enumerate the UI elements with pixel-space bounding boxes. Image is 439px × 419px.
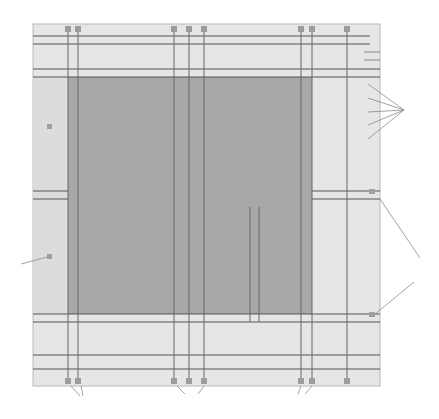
wiring-diagram	[0, 0, 439, 419]
dark-region	[68, 77, 312, 314]
left-square	[47, 124, 52, 129]
extra-square-r2	[369, 312, 375, 317]
extra-square-r1	[369, 189, 375, 194]
left-strip	[33, 77, 68, 314]
z-square	[47, 254, 52, 259]
